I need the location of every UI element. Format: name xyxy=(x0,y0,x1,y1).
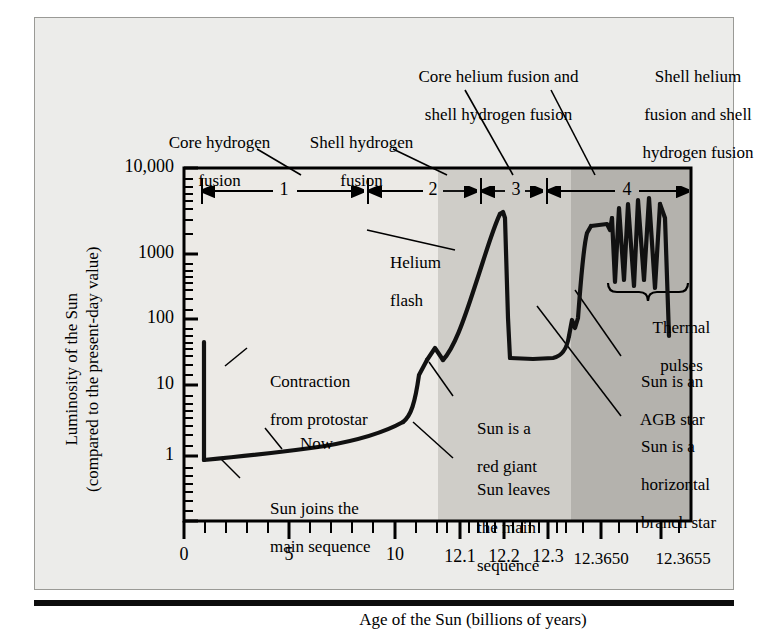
annotation-sun-is-horizontal-branch-star: Sun is a horizontal branch star xyxy=(624,418,744,551)
phase-number-3: 3 xyxy=(501,179,531,200)
annotation-line: shell hydrogen fusion xyxy=(425,105,572,124)
x-tick-label-12-3650: 12.3650 xyxy=(559,549,643,569)
annotation-line: flash xyxy=(390,291,423,310)
annotation-line: the main xyxy=(477,518,536,537)
annotation-line: pulses xyxy=(660,356,703,375)
annotation-sun-joins-main-sequence: Sun joins the main sequence xyxy=(253,480,433,575)
annotation-shell-helium-fusion: Shell helium fusion and shell hydrogen f… xyxy=(607,48,767,181)
annotation-line: fusion xyxy=(198,171,241,190)
y-axis-title: Luminosity of the Sun (compared to the p… xyxy=(61,204,104,534)
y-axis-title-line1: Luminosity of the Sun xyxy=(62,293,81,446)
annotation-line: branch star xyxy=(641,513,716,532)
annotation-line: Core hydrogen xyxy=(169,133,271,152)
annotation-line: Sun is a xyxy=(641,437,695,456)
x-tick-label-0: 0 xyxy=(164,544,204,565)
annotation-sun-leaves-main-sequence: Sun leaves the main sequence xyxy=(460,461,570,594)
annotation-line: hydrogen fusion xyxy=(643,143,754,162)
annotation-line: Contraction xyxy=(270,372,350,391)
annotation-line: Sun is a xyxy=(477,419,531,438)
annotation-line: Shell helium xyxy=(655,67,741,86)
annotation-thermal-pulses: Thermal pulses xyxy=(627,299,719,394)
x-axis-title: Age of the Sun (billions of years) xyxy=(218,610,728,630)
annotation-line: Helium xyxy=(390,253,441,272)
annotation-line: Now xyxy=(300,434,333,453)
annotation-line: Core helium fusion and xyxy=(418,67,578,86)
annotation-line: Sun joins the xyxy=(270,499,359,518)
annotation-line: Thermal xyxy=(653,318,711,337)
annotation-helium-flash: Helium flash xyxy=(373,234,483,329)
annotation-line: sequence xyxy=(477,556,539,575)
annotation-now: Now xyxy=(283,415,363,472)
annotation-line: fusion xyxy=(340,171,383,190)
x-tick-label-12-3655: 12.3655 xyxy=(641,549,725,569)
annotation-line: fusion and shell xyxy=(644,105,752,124)
y-axis-title-line2: (compared to the present-day value) xyxy=(83,247,102,492)
annotation-line: horizontal xyxy=(641,475,710,494)
figure-panel: 10,000 1000 100 10 1 0 5 10 12.1 12.2 12… xyxy=(34,17,734,590)
annotation-line: Sun leaves xyxy=(477,480,550,499)
annotation-core-hydrogen-fusion: Core hydrogen fusion xyxy=(141,114,281,209)
phase-number-4: 4 xyxy=(612,179,642,200)
annotation-line: main sequence xyxy=(270,537,371,556)
bottom-rule xyxy=(34,600,734,606)
annotation-core-helium-fusion: Core helium fusion and shell hydrogen fu… xyxy=(365,48,615,143)
